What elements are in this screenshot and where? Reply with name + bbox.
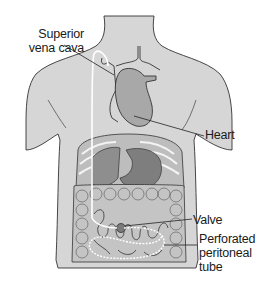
label-perforated-peritoneal-tube: Perforated peritoneal tube (199, 232, 255, 274)
label-tube-line2: peritoneal (199, 246, 255, 260)
label-svc-line1: Superior (20, 27, 84, 41)
colon (72, 185, 186, 263)
label-tube-line3: tube (199, 260, 255, 274)
label-valve: Valve (193, 213, 222, 227)
label-tube-line1: Perforated (199, 232, 255, 246)
label-superior-vena-cava: Superior vena cava (20, 27, 84, 55)
label-heart: Heart (205, 128, 235, 142)
label-svc-line2: vena cava (20, 41, 84, 55)
